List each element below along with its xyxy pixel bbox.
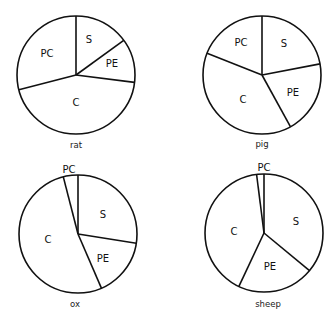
slice-label-pc: PC bbox=[257, 162, 270, 173]
slice-label-s: S bbox=[86, 34, 92, 45]
slice-label-c: C bbox=[73, 97, 80, 108]
slice-label-pc: PC bbox=[234, 37, 247, 48]
slice-label-s: S bbox=[100, 209, 106, 220]
chart-caption: pig bbox=[255, 139, 268, 149]
slice-label-c: C bbox=[45, 234, 52, 245]
chart-caption: ox bbox=[70, 299, 80, 309]
slice-label-pe: PE bbox=[106, 58, 118, 69]
slice-label-c: C bbox=[240, 94, 247, 105]
slice-label-pe: PE bbox=[97, 253, 109, 264]
pie-charts-figure: SPECPCratSPECPCpigSPECPCoxSPECPCsheep bbox=[0, 0, 332, 317]
slice-label-pc: PC bbox=[62, 164, 75, 175]
slice-label-s: S bbox=[281, 38, 287, 49]
slice-label-pe: PE bbox=[287, 87, 299, 98]
slice-label-c: C bbox=[231, 226, 238, 237]
pie-chart-sheep: SPECPCsheep bbox=[205, 162, 323, 309]
slice-label-s: S bbox=[293, 216, 299, 227]
chart-caption: rat bbox=[70, 140, 83, 150]
chart-caption: sheep bbox=[255, 299, 281, 309]
pie-chart-rat: SPECPCrat bbox=[17, 16, 135, 150]
slice-label-pe: PE bbox=[264, 261, 276, 272]
slice-label-pc: PC bbox=[40, 48, 53, 59]
pie-chart-ox: SPECPCox bbox=[19, 164, 137, 309]
pie-chart-pig: SPECPCpig bbox=[203, 16, 321, 149]
